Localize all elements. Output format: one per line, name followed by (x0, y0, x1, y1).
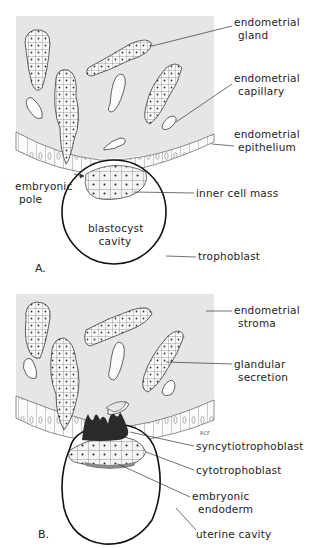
label-glandular-secretion: glandular secretion (234, 358, 288, 384)
label-syncytiotrophoblast: syncytiotrophoblast (196, 440, 304, 453)
label-blastocyst-cavity: blastocyst cavity (88, 222, 142, 248)
label-inner-cell-mass: inner cell mass (196, 187, 278, 200)
label-cytotrophoblast: cytotrophoblast (196, 464, 282, 477)
panel-letter-b: B. (38, 528, 49, 541)
label-embryonic-pole: embryonic pole (15, 180, 72, 206)
label-uterine-cavity: uterine cavity (196, 528, 271, 541)
label-embryonic-endoderm: embryonic endoderm (192, 490, 253, 516)
label-endometrial-epithelium: endometrial epithelium (234, 128, 300, 154)
label-endometrial-capillary: endometrial capillary (234, 72, 300, 98)
label-trophoblast: trophoblast (198, 250, 260, 263)
label-endometrial-gland: endometrial gland (234, 16, 300, 42)
artist-signature: RCF (200, 427, 210, 440)
label-endometrial-stroma: endometrial stroma (234, 304, 300, 330)
panel-letter-a: A. (35, 262, 46, 275)
blastocyst-a (62, 160, 166, 264)
